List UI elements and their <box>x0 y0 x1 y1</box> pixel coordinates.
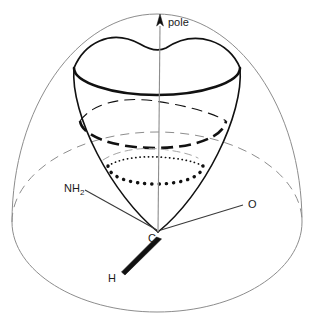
figure-canvas: pole NH2 C O H <box>0 0 312 318</box>
cone-rim-top-back <box>74 38 240 68</box>
polar-axis-arrowhead <box>157 14 164 26</box>
polar-axis-line <box>158 26 160 232</box>
label-nh2: NH2 <box>64 182 85 197</box>
label-hydrogen: H <box>108 272 116 284</box>
cone-ring-lower-front <box>108 166 203 184</box>
stereochemistry-figure: pole NH2 C O H <box>0 0 312 318</box>
cone-ring-faint <box>103 148 198 160</box>
label-nh2-text: NH <box>64 182 80 194</box>
cone-ring-middle-back <box>80 100 226 121</box>
equator-ellipse-front <box>12 222 302 312</box>
equator-ellipse-back <box>12 132 302 222</box>
label-oxygen: O <box>248 198 257 210</box>
cone-ring-middle-front <box>80 121 226 148</box>
label-nh2-subscript: 2 <box>80 188 85 197</box>
outer-sphere-dome <box>12 14 302 222</box>
cone-rim-top-front <box>74 68 240 95</box>
cone-ring-lower-back <box>108 157 203 166</box>
label-carbon: C <box>148 232 156 244</box>
label-pole: pole <box>168 16 189 28</box>
bond-c-nh2 <box>85 190 157 230</box>
cone-right-flank <box>158 68 240 232</box>
